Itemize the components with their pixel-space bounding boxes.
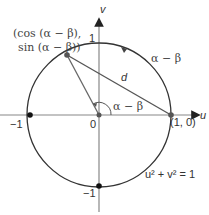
point-p-label-line1: (cos (α − β),	[13, 27, 81, 40]
point-0-neg1	[96, 183, 102, 189]
point-p-label-line2: sin (α − β))	[18, 41, 81, 54]
point-neg1-0	[27, 112, 33, 118]
u-axis-label: u	[200, 109, 206, 121]
chord-d-label: d	[121, 71, 128, 83]
tick-u-neg1: −1	[10, 118, 23, 130]
point-origin	[97, 113, 102, 118]
tick-v-1: 1	[89, 32, 95, 44]
tick-v-neg1: −1	[83, 187, 96, 199]
angle-label: α − β	[113, 100, 143, 113]
circle-equation: u² + v² = 1	[145, 168, 195, 180]
point-1-0-label: (1, 0)	[170, 116, 196, 128]
v-axis-label: v	[100, 3, 107, 15]
arc-label: α − β	[151, 52, 181, 65]
tick-origin: 0	[90, 118, 96, 130]
unit-circle-diagram: v u 1 −1 0 −1 (cos (α − β), sin (α − β))…	[0, 0, 209, 215]
